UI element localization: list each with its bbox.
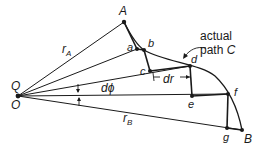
dphi-arrowhead-top [76, 89, 80, 93]
label-g: g [223, 131, 230, 143]
seg-fg [227, 94, 228, 128]
label-f: f [234, 86, 238, 98]
label-b: b [148, 37, 154, 49]
point-c [148, 69, 152, 73]
label-e: e [188, 98, 194, 110]
radius-Oa [18, 49, 137, 96]
label-A: A [118, 4, 127, 18]
label-dr: dr [163, 72, 175, 86]
seg-gB [227, 128, 242, 130]
label-dphi: dϕ [101, 81, 115, 95]
label-B: B [244, 132, 252, 146]
label-rA: rA [62, 42, 71, 58]
label-c: c [140, 65, 146, 77]
label-a: a [127, 41, 133, 53]
path-diagram: A a b c d e f g B Q O rA rB dϕ dr actual… [0, 0, 260, 146]
point-g [225, 126, 229, 130]
seg-cd [150, 66, 190, 71]
seg-de [190, 66, 192, 96]
point-f [226, 92, 230, 96]
label-path-C: path C [200, 43, 236, 57]
label-actual: actual [200, 29, 232, 43]
diagram-canvas: A a b c d e f g B Q O rA rB dϕ dr actual… [0, 0, 260, 146]
label-d: d [191, 53, 198, 65]
dr-arrowhead [186, 75, 190, 79]
dphi-arrowhead-bottom [77, 97, 81, 101]
label-Q: Q [11, 79, 20, 93]
dr-tick-left [153, 73, 154, 81]
point-A [122, 20, 126, 24]
point-b [142, 48, 146, 52]
point-a [135, 47, 139, 51]
label-O: O [11, 98, 20, 112]
